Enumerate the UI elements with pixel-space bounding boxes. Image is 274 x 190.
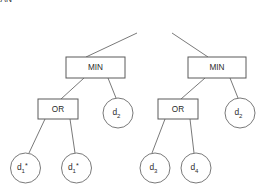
node-mean-label: MEAN	[0, 0, 12, 4]
node-leaf-d1-star-a[interactable]: d1*	[11, 153, 41, 183]
edge-min-left-to-or-left	[61, 78, 84, 99]
edge-or-left-to-d1-star-a	[29, 119, 45, 153]
edge-or-right-to-d4	[190, 119, 194, 153]
nodes-group: MEAN MIN MIN OR OR d2	[0, 0, 255, 183]
node-leaf-d3[interactable]: d3	[140, 153, 170, 183]
edge-or-left-to-d1-star-b	[70, 119, 75, 153]
tree-diagram-svg: MEAN MIN MIN OR OR d2	[0, 0, 274, 190]
node-or-right-label: OR	[172, 105, 184, 114]
edge-min-right-to-d2	[230, 78, 238, 98]
node-min-right-label: MIN	[209, 63, 224, 72]
edge-mean-to-min-left	[86, 33, 137, 57]
edge-min-right-to-or-right	[181, 78, 205, 99]
node-or-left-label: OR	[52, 105, 64, 114]
tree-diagram-canvas: MEAN MIN MIN OR OR d2	[0, 0, 274, 190]
edge-mean-to-min-right	[172, 33, 208, 57]
node-mean[interactable]: MEAN	[0, 0, 12, 4]
node-min-left[interactable]: MIN	[66, 57, 125, 78]
node-min-right[interactable]: MIN	[188, 57, 246, 78]
node-min-left-label: MIN	[88, 63, 103, 72]
node-leaf-d2-left[interactable]: d2	[103, 98, 133, 128]
node-leaf-d2-right[interactable]: d2	[225, 98, 255, 128]
node-or-right[interactable]: OR	[158, 99, 198, 119]
edge-min-left-to-d2	[108, 78, 116, 98]
edges-group	[29, 33, 238, 153]
node-leaf-d1-star-b[interactable]: d1*	[62, 153, 92, 183]
node-or-left[interactable]: OR	[38, 99, 78, 119]
edge-or-right-to-d3	[152, 119, 165, 153]
node-leaf-d4[interactable]: d4	[181, 153, 211, 183]
